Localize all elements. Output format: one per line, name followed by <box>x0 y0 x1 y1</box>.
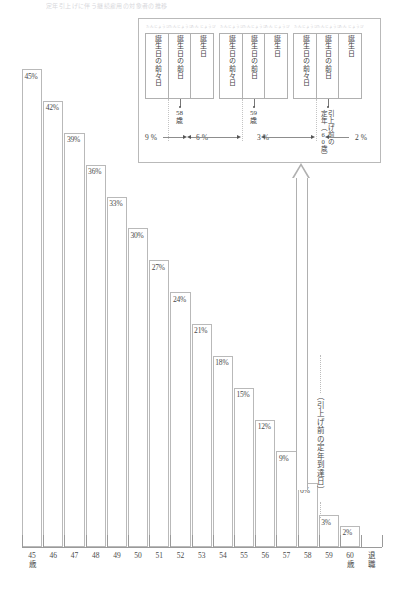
bar <box>170 292 190 547</box>
x-axis-tick <box>107 535 108 547</box>
furigana-ruby: たんじょうび <box>243 24 265 29</box>
bar <box>149 260 169 547</box>
detail-percent-connector <box>265 137 311 138</box>
x-axis-label-value: 45 <box>28 551 36 560</box>
bar <box>43 101 63 547</box>
x-axis-label-value: 56 <box>262 551 270 560</box>
furigana-ruby: たんじょうび <box>317 24 339 29</box>
detail-percent-label: 9 % <box>145 133 157 142</box>
detail-percent-connector <box>329 137 349 138</box>
x-axis-tick <box>128 535 129 547</box>
x-axis-label-value: 50 <box>134 551 142 560</box>
bar-value-label: 45% <box>25 72 38 81</box>
figure-canvas: 定年引上げに伴う継続雇用の対象者の推移 45%42%39%36%33%30%27… <box>0 0 404 600</box>
x-axis-label-unit: 職 <box>357 561 385 570</box>
bar-value-label: 12% <box>258 422 271 431</box>
detail-cell: たんじょうび誕生日 <box>191 34 213 98</box>
bar <box>86 165 106 547</box>
detail-age-unit: 歳 <box>245 118 263 126</box>
detail-group: たんじょうび誕生日の前々日たんじょうび誕生日の前日たんじょうび誕生日 <box>293 33 362 99</box>
detail-cell: たんじょうび誕生日の前日 <box>243 34 266 98</box>
x-axis-tick <box>340 535 341 547</box>
x-axis-label-value: 57 <box>283 551 291 560</box>
detail-cell-label: 誕生日 <box>272 35 280 57</box>
bar <box>213 356 233 547</box>
detail-percent-connector <box>191 137 237 138</box>
bar <box>276 451 296 547</box>
x-axis-label-value: 48 <box>92 551 100 560</box>
x-axis-tick <box>86 535 87 547</box>
detail-cell: たんじょうび誕生日の前日 <box>317 34 340 98</box>
bar-value-label: 18% <box>215 358 228 367</box>
bar-value-label: 9% <box>279 454 289 463</box>
furigana-ruby: たんじょうび <box>169 24 191 29</box>
detail-cell: たんじょうび誕生日の前々日 <box>294 34 317 98</box>
x-axis-label-value: 退 <box>368 551 375 560</box>
bar <box>107 197 127 547</box>
x-axis-label-value: 51 <box>156 551 164 560</box>
bar <box>22 69 42 547</box>
detail-cell: たんじょうび誕生日の前々日 <box>220 34 243 98</box>
x-axis-tick <box>234 535 235 547</box>
callout-arrow-shaft <box>296 178 308 490</box>
detail-percent-arrow-left <box>187 135 191 139</box>
x-axis-label-value: 55 <box>240 551 248 560</box>
detail-cell-label: 誕生日の前々日 <box>301 35 309 87</box>
detail-age-label: 58歳 <box>171 110 189 126</box>
detail-marker-guide <box>168 99 169 141</box>
x-axis-tick <box>361 535 362 547</box>
bar-value-label: 39% <box>67 135 80 144</box>
furigana-ruby: たんじょうび <box>294 24 316 29</box>
x-axis-tick <box>149 535 150 547</box>
bar <box>64 133 84 547</box>
x-axis-label-value: 47 <box>71 551 79 560</box>
x-axis-tick <box>319 535 320 547</box>
bar-value-label: 2% <box>343 528 353 537</box>
x-axis-tick <box>192 535 193 547</box>
detail-cell-label: 誕生日の前日 <box>250 35 258 79</box>
bar-value-label: 42% <box>46 103 59 112</box>
detail-percent-arrow-left <box>325 135 329 139</box>
x-axis-tick <box>170 535 171 547</box>
x-axis-label-value: 60 <box>346 551 354 560</box>
x-axis-label-value: 53 <box>198 551 206 560</box>
detail-cell: たんじょうび誕生日の前々日 <box>146 34 169 98</box>
bar-value-label: 15% <box>237 390 250 399</box>
bar-value-label: 30% <box>131 231 144 240</box>
detail-marker-guide <box>242 99 243 141</box>
x-axis-label-value: 52 <box>177 551 185 560</box>
bar-value-label: 36% <box>88 167 101 176</box>
retirement-date-caption: （引上げ前の定年到達日） <box>315 392 323 502</box>
detail-percent-label: 2 % <box>355 133 367 142</box>
detail-cell: たんじょうび誕生日 <box>339 34 361 98</box>
detail-cell: たんじょうび誕生日 <box>265 34 287 98</box>
detail-cell-label: 誕生日の前々日 <box>227 35 235 87</box>
bar-value-label: 27% <box>152 263 165 272</box>
x-axis-tick <box>255 535 256 547</box>
detail-percent-arrow-left <box>261 135 265 139</box>
retirement-date-guide-upper <box>320 355 321 393</box>
x-axis-label-value: 58 <box>304 551 312 560</box>
x-axis-label-value: 54 <box>219 551 227 560</box>
detail-percent-arrow-right <box>311 135 315 139</box>
x-axis-tick <box>213 535 214 547</box>
detail-cell-label: 誕生日の前日 <box>324 35 332 79</box>
x-axis-tick <box>43 535 44 547</box>
detail-age-label: 59歳 <box>245 110 263 126</box>
x-axis-tick <box>64 535 65 547</box>
x-axis-label-unit: 歳 <box>18 561 46 570</box>
detail-marker-dot <box>179 106 181 108</box>
x-axis-tick <box>276 535 277 547</box>
x-axis-label-value: 46 <box>50 551 58 560</box>
x-axis-tick <box>298 535 299 547</box>
x-axis-tick <box>382 535 383 547</box>
detail-cell-label: 誕生日 <box>198 35 206 57</box>
x-axis-tick <box>22 535 23 547</box>
detail-cell-label: 誕生日の前日 <box>176 35 184 79</box>
bar <box>128 228 148 547</box>
detail-percent-connector <box>163 137 183 138</box>
x-axis-label-value: 49 <box>113 551 121 560</box>
detail-marker-dot <box>327 106 329 108</box>
detail-cell: たんじょうび誕生日の前日 <box>169 34 192 98</box>
detail-group: たんじょうび誕生日の前々日たんじょうび誕生日の前日たんじょうび誕生日 <box>145 33 214 99</box>
